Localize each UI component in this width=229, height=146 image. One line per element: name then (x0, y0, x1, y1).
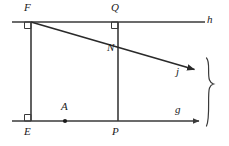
right-angle-Q (112, 22, 119, 29)
geometry-diagram: F Q h N j g A E P (0, 0, 229, 146)
label-E: E (24, 126, 31, 137)
label-N: N (107, 42, 114, 53)
point-A-dot (63, 119, 67, 123)
right-angle-F (25, 22, 32, 29)
label-line-g: g (175, 104, 181, 115)
right-angle-E (25, 115, 32, 122)
curly-brace (207, 58, 214, 126)
label-A: A (61, 101, 68, 112)
label-line-h: h (207, 14, 213, 25)
label-F: F (24, 2, 31, 13)
label-line-j: j (176, 66, 179, 77)
label-Q: Q (111, 2, 119, 13)
label-P: P (112, 126, 119, 137)
